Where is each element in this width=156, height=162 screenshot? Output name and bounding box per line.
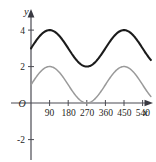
origin-label: O (18, 98, 25, 109)
x-tick-label-360: 360 (99, 108, 114, 118)
figure-container: 90 180 270 360 450 540 4 2 -2 O y x (0, 0, 156, 162)
x-axis-label: x (142, 107, 148, 118)
y-tick-labels: 4 2 -2 (17, 26, 25, 146)
y-tick-label-neg2: -2 (17, 135, 25, 145)
x-tick-labels: 90 180 270 360 450 540 (45, 108, 150, 118)
y-axis-label: y (23, 6, 29, 17)
x-tick-label-450: 450 (117, 108, 132, 118)
x-tick-label-180: 180 (61, 108, 76, 118)
y-tick-label-2: 2 (20, 62, 25, 72)
sine-curve-chart: 90 180 270 360 450 540 4 2 -2 O y x (0, 0, 156, 162)
y-tick-label-4: 4 (20, 26, 25, 36)
x-axis-arrow-icon (145, 100, 154, 107)
x-tick-label-270: 270 (80, 108, 95, 118)
x-tick-label-90: 90 (45, 108, 55, 118)
black-sine-curve (31, 30, 151, 66)
gray-sine-curve (31, 67, 151, 103)
